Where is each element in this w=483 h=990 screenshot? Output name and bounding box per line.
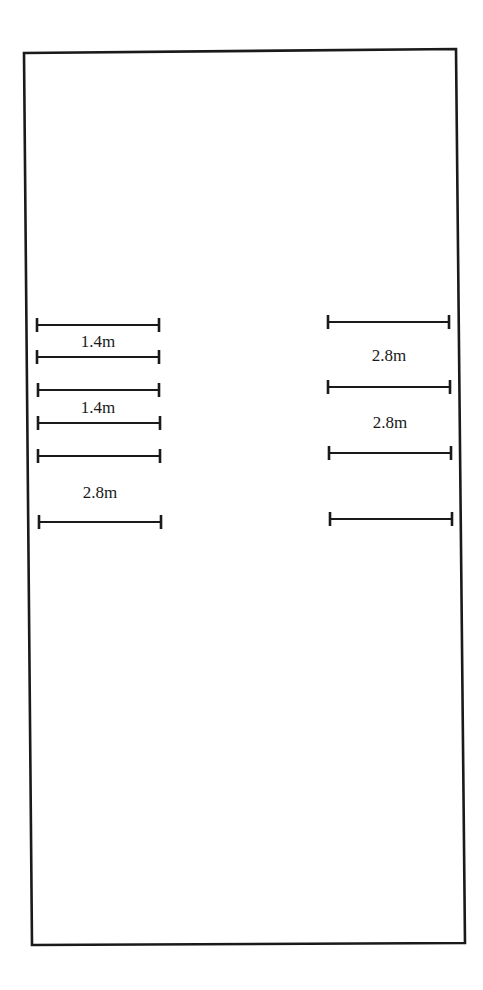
left-label-2: 1.4m	[81, 398, 115, 417]
spacing-diagram: 1.4m 1.4m 2.8m 2.8m 2.8m	[0, 0, 483, 990]
left-marker-6	[39, 515, 161, 529]
left-marker-5	[38, 449, 160, 463]
left-marker-2	[37, 350, 159, 364]
right-marker-1	[328, 315, 449, 329]
right-marker-3	[329, 446, 451, 460]
right-marker-4	[330, 512, 452, 526]
right-label-2: 2.8m	[373, 413, 407, 432]
left-marker-3	[38, 383, 159, 397]
right-marker-2	[328, 380, 450, 394]
left-marker-4	[38, 416, 160, 430]
left-label-3: 2.8m	[83, 483, 117, 502]
left-marker-1	[37, 318, 159, 332]
right-label-1: 2.8m	[372, 346, 406, 365]
left-label-1: 1.4m	[81, 332, 115, 351]
